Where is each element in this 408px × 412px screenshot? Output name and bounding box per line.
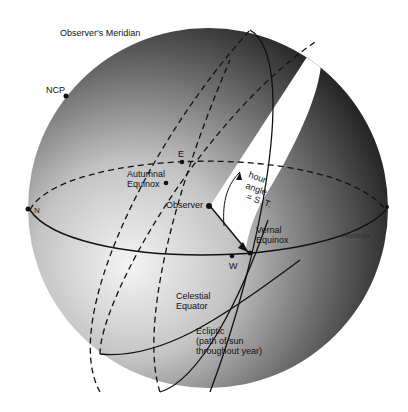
w-point [230,254,235,259]
observer-point [206,203,212,209]
label-e: E [178,149,184,159]
vernal-equinox-point [248,251,253,256]
label-vernal-1: Vernal [256,225,282,235]
label-autumnal-2: Equinox [127,179,160,189]
label-autumnal-1: Autumnal [127,169,165,179]
celestial-sphere-diagram: Observer's Meridian NCP E Autumnal Equin… [0,0,408,412]
label-celestial-1: Celestial [176,291,211,301]
autumnal-equinox-point [164,181,169,186]
label-n: N [34,206,40,215]
n-point [26,207,31,212]
label-ncp: NCP [46,85,65,95]
label-w: W [229,261,238,271]
s-point [385,205,389,209]
label-observers-meridian: Observer's Meridian [60,28,140,38]
label-ecliptic-1: Ecliptic [196,326,225,336]
label-vernal-2: Equinox [256,235,289,245]
label-observer: Observer [166,200,203,210]
e-point [180,160,185,165]
label-celestial-2: Equator [176,301,208,311]
label-ecliptic-3: throughout year) [196,346,262,356]
label-horizon: Horizon [342,231,370,240]
label-ecliptic-2: (path of sun [196,336,244,346]
